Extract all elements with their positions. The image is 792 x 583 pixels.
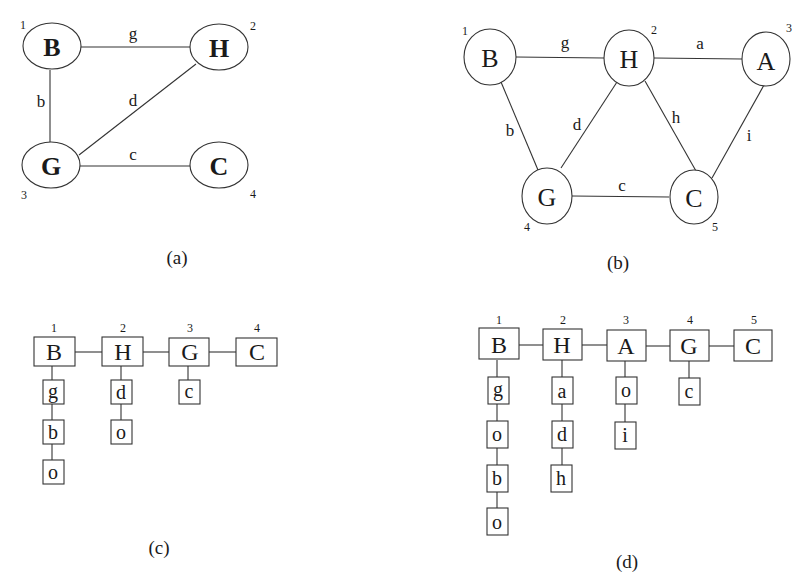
column-num-c-1: 1 bbox=[51, 321, 57, 335]
node-b-H-num: 2 bbox=[651, 23, 657, 37]
item-label-c-1-2: b bbox=[48, 421, 58, 443]
edge-b-H-C bbox=[645, 81, 696, 171]
node-a-H-label: H bbox=[209, 34, 229, 63]
item-label-d-1-1: g bbox=[493, 378, 503, 401]
item-label-c-2-2: o bbox=[116, 421, 126, 443]
item-label-d-3-1: o bbox=[621, 379, 631, 401]
node-a-G-num: 3 bbox=[21, 188, 27, 202]
edge-label-a-d: d bbox=[129, 91, 138, 110]
caption-c: (c) bbox=[148, 537, 169, 559]
edge-label-a-b: b bbox=[37, 92, 46, 111]
node-b-C-num: 5 bbox=[712, 220, 718, 234]
adjacency-list-d: 1 2 3 4 5 B H A G C g o b o a d h o bbox=[479, 313, 772, 573]
edge-label-b-g: g bbox=[561, 33, 570, 52]
edge-label-b-d: d bbox=[573, 115, 582, 134]
item-label-d-3-2: i bbox=[622, 424, 628, 446]
edge-a-G-H bbox=[79, 64, 196, 155]
node-b-A-label: A bbox=[757, 47, 776, 76]
node-b-B-num: 1 bbox=[462, 24, 468, 38]
edge-label-b-c: c bbox=[618, 176, 626, 195]
node-b-H-label: H bbox=[620, 45, 639, 74]
head-label-d-B: B bbox=[491, 332, 507, 358]
node-a-G-label: G bbox=[41, 152, 61, 181]
item-label-d-2-2: d bbox=[557, 423, 567, 445]
head-label-d-H: H bbox=[553, 332, 570, 358]
edge-b-A-C bbox=[712, 85, 764, 178]
head-label-c-B: B bbox=[46, 339, 62, 365]
column-num-c-4: 4 bbox=[254, 321, 260, 335]
column-num-d-5: 5 bbox=[751, 313, 757, 327]
item-label-c-1-1: g bbox=[48, 380, 58, 403]
item-label-d-1-4: o bbox=[492, 511, 502, 533]
column-num-d-3: 3 bbox=[623, 313, 629, 327]
caption-d: (d) bbox=[616, 551, 638, 573]
column-num-d-2: 2 bbox=[560, 313, 566, 327]
node-a-H-num: 2 bbox=[250, 19, 256, 33]
item-label-c-1-3: o bbox=[48, 461, 58, 483]
column-num-c-3: 3 bbox=[187, 321, 193, 335]
edge-label-a-c: c bbox=[129, 145, 137, 164]
edge-label-b-a: a bbox=[696, 34, 704, 53]
column-num-d-4: 4 bbox=[687, 313, 693, 327]
node-b-G-num: 4 bbox=[524, 220, 530, 234]
caption-b: (b) bbox=[607, 252, 629, 274]
figure-canvas: g b d c B 1 H 2 G 3 C 4 (a) g a b d h i bbox=[0, 0, 792, 583]
head-label-d-A: A bbox=[617, 333, 635, 359]
node-a-B-label: B bbox=[43, 33, 60, 62]
column-num-c-2: 2 bbox=[120, 321, 126, 335]
node-a-B-num: 1 bbox=[20, 18, 26, 32]
node-b-G-label: G bbox=[538, 183, 557, 212]
node-b-C-label: C bbox=[685, 184, 702, 213]
item-label-c-2-1: d bbox=[116, 381, 126, 403]
edge-b-B-H bbox=[516, 57, 604, 58]
item-label-d-1-2: o bbox=[492, 423, 502, 445]
item-label-c-3-1: c bbox=[185, 380, 194, 402]
node-a-C-label: C bbox=[210, 152, 229, 181]
node-b-B-label: B bbox=[481, 44, 498, 73]
edge-b-G-C bbox=[572, 196, 669, 197]
head-label-c-H: H bbox=[114, 339, 131, 365]
caption-a: (a) bbox=[166, 247, 187, 269]
edge-label-a-g: g bbox=[129, 24, 138, 43]
head-label-d-C: C bbox=[745, 333, 761, 359]
node-a-C-num: 4 bbox=[250, 187, 256, 201]
column-num-d-1: 1 bbox=[496, 313, 502, 327]
graph-b: g a b d h i c B 1 H 2 A 3 G 4 C 5 (b) bbox=[462, 21, 792, 274]
head-label-c-G: G bbox=[181, 339, 198, 365]
edge-b-H-A bbox=[654, 58, 742, 59]
item-label-d-2-3: h bbox=[556, 467, 566, 489]
edge-b-G-H bbox=[561, 82, 617, 168]
head-label-c-C: C bbox=[249, 339, 265, 365]
head-label-d-G: G bbox=[680, 333, 697, 359]
graph-a: g b d c B 1 H 2 G 3 C 4 (a) bbox=[20, 18, 256, 269]
edge-label-b-h: h bbox=[672, 108, 681, 127]
item-label-d-4-1: c bbox=[685, 380, 694, 402]
edge-label-b-i: i bbox=[747, 126, 752, 145]
adjacency-list-c: 1 2 3 4 B H G C g b o d o c (c) bbox=[34, 321, 277, 559]
edge-label-b-b: b bbox=[506, 121, 515, 140]
item-label-d-2-1: a bbox=[558, 380, 567, 402]
item-label-d-1-3: b bbox=[492, 467, 502, 489]
node-b-A-num: 3 bbox=[786, 21, 792, 35]
